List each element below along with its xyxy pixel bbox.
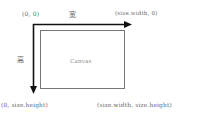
- x-axis-arrowhead: [124, 21, 132, 28]
- top-right-label: (size.width, 0): [115, 10, 158, 16]
- origin-label: (0, 0): [22, 10, 39, 17]
- bottom-left-label: (0, size.height): [1, 102, 48, 108]
- y-axis-arrowhead: [30, 86, 37, 94]
- bottom-right-label: (size.width, size.height): [97, 102, 172, 108]
- canvas-label: Canvas: [70, 58, 91, 64]
- width-axis-label: 宽: [69, 9, 76, 19]
- height-axis-label: 高: [17, 54, 24, 64]
